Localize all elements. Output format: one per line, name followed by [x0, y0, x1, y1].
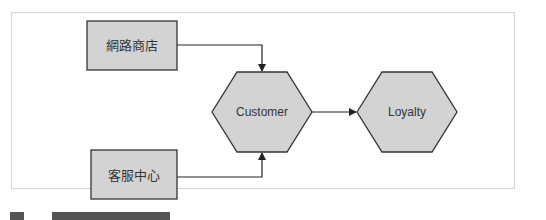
edge-service-to-customer: [177, 153, 262, 177]
node-label: 客服中心: [108, 168, 160, 183]
node-label: Customer: [236, 105, 288, 119]
node-customer: Customer: [212, 72, 312, 152]
figure-caption-clipped: [10, 206, 180, 220]
edge-store-to-customer: [177, 45, 262, 71]
node-service-center: 客服中心: [91, 150, 177, 199]
node-label: Loyalty: [388, 105, 426, 119]
caption-fragment: [10, 212, 24, 220]
caption-fragment: [52, 212, 170, 220]
node-online-store: 網路商店: [87, 21, 177, 70]
node-label: 網路商店: [106, 38, 158, 53]
node-loyalty: Loyalty: [357, 72, 457, 152]
flow-diagram: 網路商店 客服中心 Customer Loyalty: [0, 0, 546, 220]
